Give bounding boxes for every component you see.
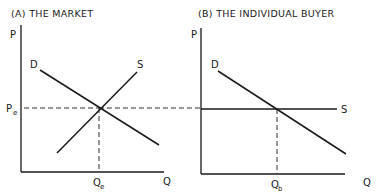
market-supply-label: S	[137, 59, 143, 70]
panel-individual-title: (B) THE INDIVIDUAL BUYER	[198, 8, 334, 19]
market-x-axis-label: Q	[163, 176, 171, 187]
market-demand-label: D	[30, 59, 38, 70]
market-price-subscript: e	[13, 109, 17, 117]
market-supply-curve	[57, 72, 137, 153]
supply-demand-diagram: (A) THE MARKET P Q D S P e Q e (B) THE I…	[0, 0, 377, 195]
panel-market: (A) THE MARKET P Q D S P e Q e	[6, 8, 171, 191]
market-y-axis-label: P	[10, 29, 16, 40]
market-demand-curve	[40, 70, 159, 145]
individual-demand-label: D	[211, 59, 219, 70]
market-price-label: P	[6, 103, 12, 114]
individual-quantity-subscript: b	[278, 185, 283, 193]
panel-market-title: (A) THE MARKET	[11, 8, 93, 19]
individual-y-axis-label: P	[191, 29, 197, 40]
panel-individual-buyer: (B) THE INDIVIDUAL BUYER P Q D S Q b	[191, 8, 371, 193]
market-quantity-subscript: e	[100, 183, 104, 191]
individual-demand-curve	[218, 71, 346, 154]
individual-x-axis-label: Q	[363, 177, 371, 188]
individual-supply-label: S	[341, 104, 347, 115]
